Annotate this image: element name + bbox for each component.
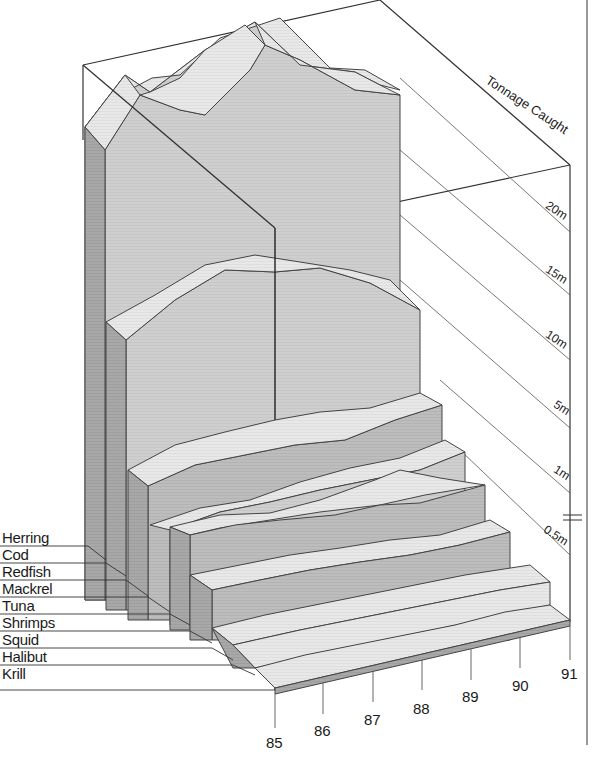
- x-tick-86: 86: [314, 722, 331, 739]
- x-tick-88: 88: [413, 700, 430, 717]
- legend-item-halibut: Halibut: [2, 649, 47, 664]
- x-tick-87: 87: [364, 711, 381, 728]
- x-tick-90: 90: [512, 677, 529, 694]
- axis-break-icon: [563, 515, 582, 520]
- chart-canvas: [0, 0, 597, 770]
- legend-item-cod: Cod: [2, 547, 29, 562]
- legend-item-krill: Krill: [2, 666, 26, 681]
- legend-item-herring: Herring: [2, 530, 49, 545]
- legend-item-shrimps: Shrimps: [2, 615, 55, 630]
- x-tick-89: 89: [462, 688, 479, 705]
- x-tick-91: 91: [561, 665, 578, 682]
- legend-item-mackrel: Mackrel: [2, 581, 52, 596]
- legend-item-tuna: Tuna: [2, 598, 34, 613]
- x-tick-85: 85: [266, 734, 283, 751]
- legend-item-redfish: Redfish: [2, 564, 51, 579]
- legend-item-squid: Squid: [2, 632, 39, 647]
